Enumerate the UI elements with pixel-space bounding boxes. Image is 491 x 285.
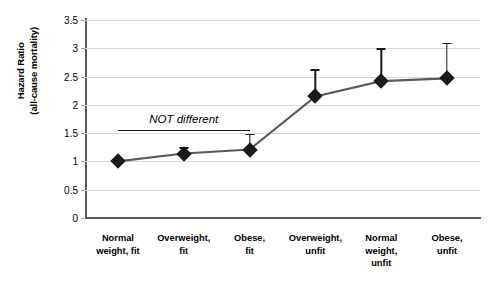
error-bar-cap [377,48,386,49]
not-different-annotation: NOT different [149,113,218,125]
x-axis-labels: Normalweight, fitOverweight,fitObese,fit… [85,232,480,282]
x-axis-line [85,217,481,219]
y-tick-label: 0.5 [64,184,78,195]
x-axis-label-line: Overweight, [277,232,353,245]
x-axis-label-line: Overweight, [146,232,222,245]
not-different-underline [118,130,250,131]
y-tick-label: 3.5 [64,15,78,26]
x-axis-label-line: Obese, [212,232,288,245]
y-tick-label: 3 [72,43,78,54]
x-axis-label: Overweight,unfit [277,232,353,257]
x-axis-label: Obese,unfit [409,232,485,257]
data-point-marker [308,89,324,105]
y-axis-title-line1: Hazard Ratio [15,0,28,151]
x-axis-label-line: unfit [343,257,419,270]
gridline [85,20,480,21]
data-point-marker [110,154,126,170]
y-tick-label: 1.5 [64,128,78,139]
x-axis-label-line: weight, [343,245,419,258]
plot-area: 00.511.522.533.5 NOT different [85,20,480,218]
x-axis-label-line: fit [146,245,222,258]
x-axis-label: Overweight,fit [146,232,222,257]
x-axis-label-line: unfit [409,245,485,258]
x-axis-label: Normalweight, fit [80,232,156,257]
y-tick-label: 1 [72,156,78,167]
x-axis-label-line: Normal [343,232,419,245]
y-tick-mark [81,105,85,106]
gridline [85,105,480,106]
y-tick-mark [81,133,85,134]
hazard-ratio-chart: Hazard Ratio (all-cause mortality) 00.51… [0,0,491,285]
y-tick-label: 0 [72,213,78,224]
x-axis-label-line: unfit [277,245,353,258]
y-tick-mark [81,161,85,162]
series-line [85,20,480,218]
x-axis-label: Normalweight,unfit [343,232,419,270]
x-axis-label-line: fit [212,245,288,258]
y-tick-mark [81,218,85,219]
y-tick-mark [81,190,85,191]
x-axis-label: Obese,fit [212,232,288,257]
data-point-marker [242,142,258,158]
x-axis-label-line: Normal [80,232,156,245]
error-bar-cap [311,69,320,70]
gridline [85,77,480,78]
y-axis-title-line2: (all-cause mortality) [28,0,41,151]
gridline [85,161,480,162]
x-axis-label-line: Obese, [409,232,485,245]
y-tick-label: 2.5 [64,71,78,82]
data-point-marker [439,70,455,86]
y-tick-mark [81,77,85,78]
gridline [85,48,480,49]
error-bar-cap [245,134,254,135]
gridline [85,190,480,191]
y-tick-label: 2 [72,99,78,110]
gridline [85,133,480,134]
y-tick-mark [81,48,85,49]
x-axis-label-line: weight, fit [80,245,156,258]
y-tick-mark [81,20,85,21]
y-axis-title: Hazard Ratio (all-cause mortality) [15,0,41,151]
error-bar-cap [443,43,452,44]
